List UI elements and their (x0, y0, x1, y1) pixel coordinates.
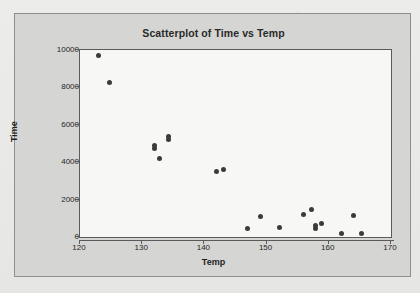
x-tick-mark (328, 240, 329, 244)
data-point (157, 156, 162, 161)
plot-area (79, 49, 392, 238)
x-tick-mark (203, 240, 204, 244)
x-tick-mark (390, 240, 391, 244)
data-point (166, 137, 171, 142)
x-tick-label: 160 (308, 243, 348, 252)
y-tick-label: 2000 (39, 194, 79, 203)
y-tick-label: 6000 (39, 119, 79, 128)
data-point (301, 212, 306, 217)
x-tick-label: 150 (246, 243, 286, 252)
chart-title: Scatterplot of Time vs Temp (15, 27, 412, 39)
y-tick-label: 0 (39, 232, 79, 241)
x-axis-title: Temp (15, 257, 412, 267)
data-point (214, 169, 219, 174)
data-point (152, 146, 157, 151)
graph-panel: Scatterplot of Time vs Temp Time Temp 02… (14, 13, 411, 277)
y-tick-label: 10000 (39, 45, 79, 54)
x-tick-label: 120 (59, 243, 99, 252)
y-axis: 0200040006000800010000 (15, 49, 79, 236)
x-tick-label: 130 (121, 243, 161, 252)
data-point (221, 167, 226, 172)
data-point (313, 226, 318, 231)
x-tick-label: 140 (183, 243, 223, 252)
data-point (107, 80, 112, 85)
y-tick-label: 4000 (39, 157, 79, 166)
data-point (319, 221, 324, 226)
data-point (309, 207, 314, 212)
x-tick-label: 170 (370, 243, 410, 252)
data-point (339, 231, 344, 236)
x-axis: 120130140150160170 (79, 236, 390, 256)
data-point (258, 214, 263, 219)
data-point (96, 53, 101, 58)
data-point (277, 225, 282, 230)
data-point (245, 226, 250, 231)
x-tick-mark (79, 240, 80, 244)
x-tick-mark (141, 240, 142, 244)
data-point (351, 213, 356, 218)
data-point (359, 231, 364, 236)
x-tick-mark (266, 240, 267, 244)
y-tick-label: 8000 (39, 82, 79, 91)
